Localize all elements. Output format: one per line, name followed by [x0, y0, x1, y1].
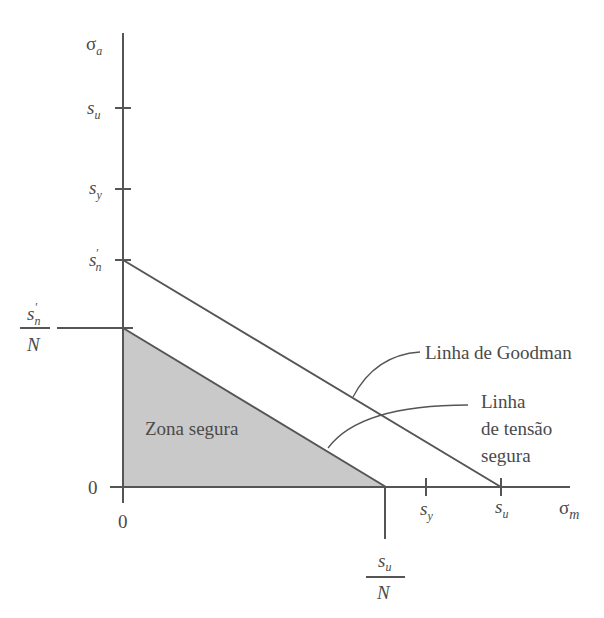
y-tick-label-su: su — [87, 97, 100, 122]
x-fraction-denominator: N — [376, 582, 391, 603]
y-tick-label-sn: sn′ — [89, 246, 101, 274]
y-tick-label-sy: sy — [89, 177, 102, 202]
safe-line-annotation-2: de tensão — [481, 418, 552, 439]
y-fraction-numerator: sn′ — [27, 300, 40, 328]
y-axis-label: σa — [86, 33, 102, 58]
x-fraction-numerator: su — [378, 550, 391, 574]
x-axis-label: σm — [559, 497, 579, 522]
x-tick-label-sy: sy — [420, 498, 433, 523]
safe-line-annotation-3: segura — [481, 445, 531, 466]
origin-x-label: 0 — [118, 511, 128, 532]
x-tick-label-su: su — [495, 496, 508, 521]
safe-line-leader — [328, 405, 468, 448]
origin-y-label: 0 — [88, 477, 98, 498]
goodman-leader — [353, 352, 420, 397]
goodman-diagram: σa su sy sn′ sn′ N 0 0 sy su σm su N Zon… — [0, 0, 604, 618]
safe-zone-label: Zona segura — [145, 418, 239, 439]
y-fraction-denominator: N — [26, 334, 41, 355]
safe-line-annotation-1: Linha — [481, 391, 526, 412]
goodman-annotation: Linha de Goodman — [425, 342, 572, 363]
